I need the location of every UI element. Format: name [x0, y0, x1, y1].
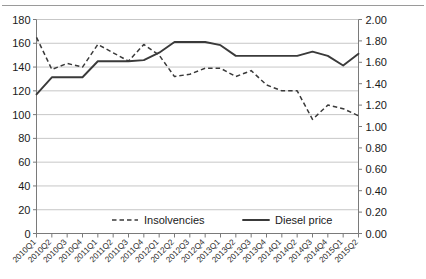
left-axis-tick-label: 80 — [18, 132, 30, 144]
right-axis-tick-label: 1.80 — [366, 35, 387, 47]
right-axis-tick-label: 1.00 — [366, 121, 387, 133]
chart-legend: InsolvenciesDiesel price — [112, 214, 332, 226]
left-axis-tick-label: 120 — [12, 85, 30, 97]
series-line-insolvencies — [37, 37, 359, 119]
category-axis: 2010Q12010Q22010Q32010Q42011Q12011Q22011… — [11, 234, 360, 265]
left-axis-tick-label: 60 — [18, 156, 30, 168]
left-axis-tick-label: 40 — [18, 180, 30, 192]
legend-label-insolvencies: Insolvencies — [144, 214, 205, 226]
right-axis-tick-label: 0.40 — [366, 185, 387, 197]
left-axis-tick-label: 100 — [12, 109, 30, 121]
header-divider — [2, 5, 424, 6]
left-value-axis: 020406080100120140160180 — [12, 14, 36, 240]
left-axis-tick-label: 160 — [12, 37, 30, 49]
series-line-diesel-price — [37, 42, 359, 94]
right-axis-tick-label: 1.60 — [366, 56, 387, 68]
plot-series-group — [37, 37, 359, 119]
right-axis-tick-label: 0.20 — [366, 206, 387, 218]
dual-axis-line-chart: 020406080100120140160180 0.000.200.400.6… — [0, 0, 426, 279]
left-axis-tick-label: 140 — [12, 61, 30, 73]
right-axis-tick-label: 1.40 — [366, 78, 387, 90]
chart-container: 020406080100120140160180 0.000.200.400.6… — [0, 0, 426, 279]
legend-label-diesel-price: Diesel price — [275, 214, 332, 226]
right-axis-tick-label: 2.00 — [366, 14, 387, 26]
right-axis-tick-label: 0.00 — [366, 228, 387, 240]
right-axis-tick-label: 0.60 — [366, 163, 387, 175]
right-value-axis: 0.000.200.400.600.801.001.201.401.601.80… — [359, 14, 387, 240]
right-axis-tick-label: 0.80 — [366, 142, 387, 154]
left-axis-tick-label: 180 — [12, 14, 30, 26]
right-axis-tick-label: 1.20 — [366, 99, 387, 111]
left-axis-tick-label: 0 — [24, 228, 30, 240]
left-axis-tick-label: 20 — [18, 204, 30, 216]
